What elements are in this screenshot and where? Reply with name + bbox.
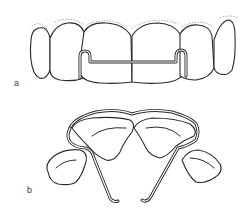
occlusal-tooth-right-large: [134, 118, 195, 158]
tooth-right-canine: [214, 20, 235, 75]
occlusal-tooth-left-small: [47, 150, 87, 185]
panel-label-a: a: [14, 78, 19, 88]
occlusal-tooth-right-small: [182, 150, 221, 183]
figure-canvas: [0, 0, 248, 213]
panel-a-drawing: [30, 16, 238, 83]
panel-label-b: b: [27, 185, 32, 195]
panel-b-drawing: [47, 110, 221, 201]
tooth-left-canine: [30, 28, 50, 79]
